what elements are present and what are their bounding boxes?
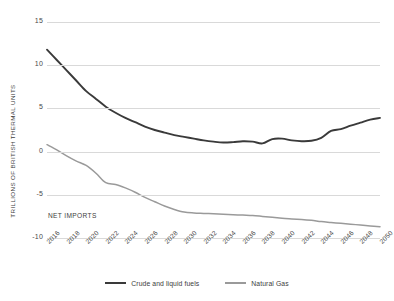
gridline: [47, 22, 380, 23]
chart-legend: Crude and liquid fuels Natural Gas: [0, 275, 394, 291]
x-axis-tick-labels: 2016201820202022202420262028203020322034…: [47, 240, 380, 270]
legend-swatch-natural-gas: [225, 282, 246, 284]
plot-area: [47, 22, 380, 238]
gridline: [47, 152, 380, 153]
series-lines: [47, 22, 380, 238]
legend-item-crude[interactable]: Crude and liquid fuels: [105, 280, 199, 287]
legend-swatch-crude: [105, 282, 126, 284]
y-axis-tick-labels: 151050-5-10: [12, 22, 43, 238]
y-axis-tick-label: 10: [17, 60, 43, 67]
y-axis-tick-label: -5: [17, 190, 43, 197]
legend-label-natural-gas: Natural Gas: [251, 280, 288, 287]
gridline: [47, 65, 380, 66]
gridline: [47, 195, 380, 196]
energy-trade-line-chart: TRILLIONS OF BRITISH THERMAL UNITS 15105…: [0, 0, 394, 301]
series-line-crude-and-liquid-fuels: [47, 50, 380, 144]
y-axis-tick-label: 0: [17, 147, 43, 154]
gridline: [47, 108, 380, 109]
legend-label-crude: Crude and liquid fuels: [131, 280, 199, 287]
y-axis-tick-label: -10: [17, 233, 43, 240]
legend-item-natural-gas[interactable]: Natural Gas: [225, 280, 288, 287]
x-axis-tick-label: 2050: [378, 229, 394, 245]
net-imports-annotation: NET IMPORTS: [48, 212, 97, 219]
y-axis-tick-label: 5: [17, 103, 43, 110]
y-axis-tick-label: 15: [17, 17, 43, 24]
